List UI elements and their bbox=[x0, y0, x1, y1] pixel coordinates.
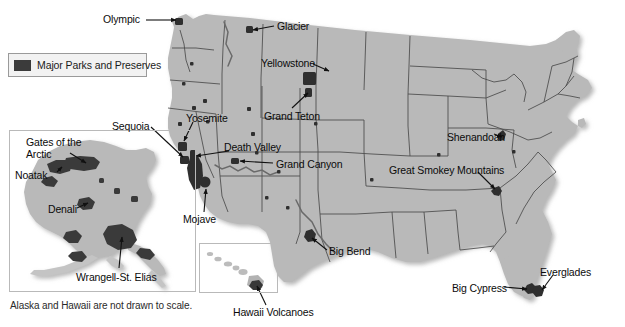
label-gates-of-the-arctic: Gates of the Arctic bbox=[26, 136, 90, 160]
label-noatak: Noatak bbox=[15, 170, 47, 182]
label-big-cypress: Big Cypress bbox=[452, 283, 507, 295]
label-shenandoah: Shenandoah bbox=[447, 132, 505, 144]
label-death-valley: Death Valley bbox=[224, 142, 281, 154]
label-denali: Denali bbox=[48, 204, 77, 216]
label-big-bend: Big Bend bbox=[329, 246, 370, 258]
legend-label: Major Parks and Preserves bbox=[37, 59, 161, 71]
label-yellowstone: Yellowstone bbox=[261, 58, 315, 70]
label-hawaii-volcanoes: Hawaii Volcanoes bbox=[233, 307, 313, 319]
map-legend: Major Parks and Preserves bbox=[8, 53, 147, 77]
hawaii-inset-frame bbox=[199, 243, 278, 293]
label-grand-teton: Grand Teton bbox=[264, 111, 320, 123]
label-mojave: Mojave bbox=[183, 214, 216, 226]
label-yosemite: Yosemite bbox=[186, 113, 228, 125]
legend-swatch-major-parks bbox=[14, 60, 31, 71]
parks-map-figure: Major Parks and Preserves Olympic Glacie… bbox=[0, 0, 625, 327]
scale-footnote: Alaska and Hawaii are not drawn to scale… bbox=[10, 300, 192, 311]
label-sequoia: Sequoia bbox=[112, 121, 149, 133]
label-olympic: Olympic bbox=[103, 14, 140, 26]
label-great-smokey-mountains: Great Smokey Mountains bbox=[389, 165, 504, 177]
label-everglades: Everglades bbox=[540, 267, 591, 279]
label-glacier: Glacier bbox=[277, 21, 309, 33]
label-wrangell-st-elias: Wrangell-St. Elias bbox=[76, 272, 157, 284]
label-grand-canyon: Grand Canyon bbox=[276, 159, 343, 171]
